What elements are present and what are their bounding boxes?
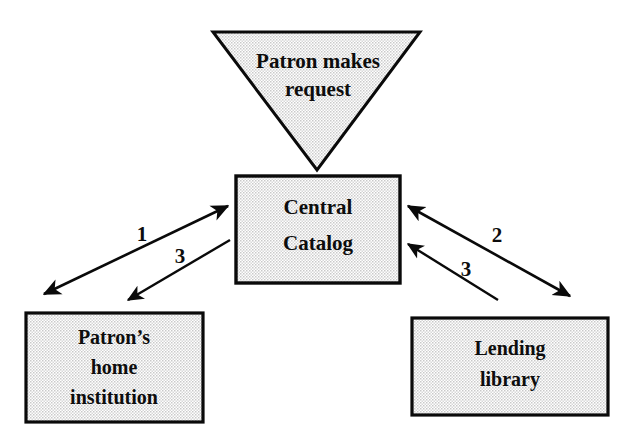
lending-library-box — [412, 318, 608, 415]
node-lending-library-line-0: Lending — [474, 337, 545, 360]
connector-label-step3-left: 3 — [175, 244, 186, 268]
connector-label-step1: 1 — [137, 222, 148, 246]
connector-catalog-lending-library-step2: 2 — [408, 206, 570, 296]
node-patron-home-institution-line-0: Patron’s — [78, 326, 150, 348]
flow-diagram: Patron makes request 1 2 3 3 Central Cat… — [0, 0, 636, 447]
connector-label-step3-right: 3 — [461, 257, 472, 281]
connector-lending-library-to-catalog-step3: 3 — [408, 244, 498, 300]
connector-line-step2 — [408, 206, 570, 296]
connector-line-step1 — [44, 206, 228, 294]
node-lending-library: Lending library — [412, 318, 608, 415]
node-central-catalog-line-0: Central — [284, 195, 353, 219]
connector-catalog-to-home-institution-step3: 3 — [128, 240, 230, 300]
node-patron-request-line-0: Patron makes — [256, 49, 380, 73]
node-patron-home-institution-line-1: home — [91, 356, 138, 378]
node-central-catalog-line-1: Catalog — [283, 231, 353, 255]
node-central-catalog: Central Catalog — [236, 176, 400, 283]
diagram-canvas: Patron makes request 1 2 3 3 Central Cat… — [0, 0, 636, 447]
node-patron-request: Patron makes request — [213, 32, 420, 170]
node-patron-home-institution-line-2: institution — [70, 386, 158, 408]
node-patron-home-institution: Patron’s home institution — [26, 313, 203, 422]
node-patron-request-line-1: request — [285, 77, 351, 101]
connector-line-step3-right — [408, 244, 498, 300]
central-catalog-box — [236, 176, 400, 283]
connector-label-step2: 2 — [492, 223, 503, 247]
node-lending-library-line-1: library — [480, 368, 540, 391]
connector-catalog-home-institution-step1: 1 — [44, 206, 228, 294]
